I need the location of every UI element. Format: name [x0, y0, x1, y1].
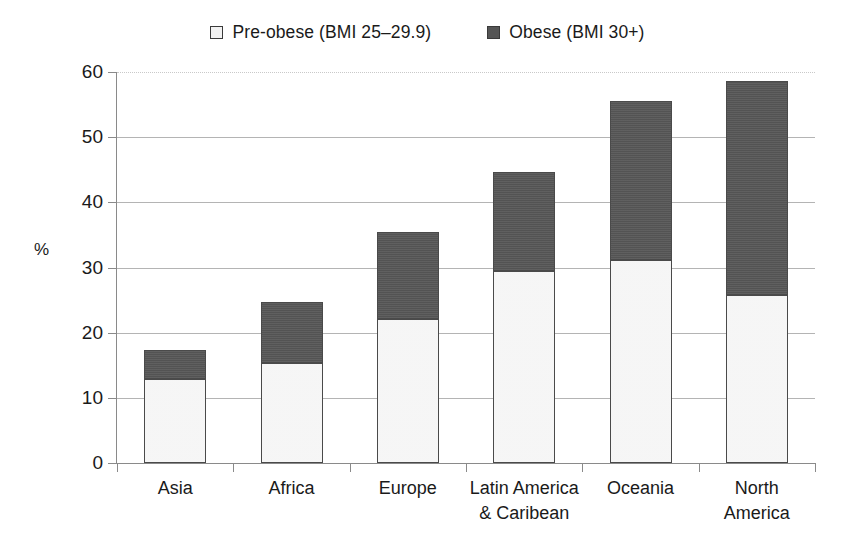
y-tick-mark-0 [108, 463, 117, 464]
bar-segment-pre-obese[interactable] [726, 295, 788, 463]
bar-segment-obese[interactable] [493, 172, 555, 271]
y-tick-label-20: 20 [82, 322, 103, 344]
x-axis-label: Africa [233, 476, 349, 501]
y-tick-mark-60 [108, 72, 117, 73]
x-axis-labels: AsiaAfricaEuropeLatin America & Caribean… [117, 476, 815, 546]
bar-segment-obese[interactable] [261, 302, 323, 363]
bar-segment-obese[interactable] [726, 81, 788, 295]
x-tick-mark [466, 463, 467, 472]
bar-group[interactable] [144, 72, 206, 463]
x-axis-label: North America [699, 476, 815, 526]
x-axis-label: Asia [117, 476, 233, 501]
x-tick-mark-origin [117, 463, 118, 472]
y-tick-mark-20 [108, 333, 117, 334]
bar-group[interactable] [377, 72, 439, 463]
bar-segment-pre-obese[interactable] [144, 379, 206, 463]
legend-label-obese: Obese (BMI 30+) [509, 22, 644, 43]
bars-layer [117, 72, 815, 463]
chart-legend: Pre-obese (BMI 25–29.9) Obese (BMI 30+) [0, 22, 855, 43]
x-tick-mark [233, 463, 234, 472]
stacked-bar-chart: Pre-obese (BMI 25–29.9) Obese (BMI 30+) … [0, 0, 855, 553]
bar-segment-pre-obese[interactable] [261, 363, 323, 463]
bar-segment-obese[interactable] [144, 350, 206, 379]
bar-segment-obese[interactable] [610, 101, 672, 261]
bar-segment-pre-obese[interactable] [493, 271, 555, 463]
y-tick-mark-30 [108, 268, 117, 269]
bar-segment-pre-obese[interactable] [610, 260, 672, 463]
y-tick-label-0: 0 [92, 452, 103, 474]
y-tick-label-30: 30 [82, 257, 103, 279]
dark-square-icon [487, 26, 500, 39]
y-tick-mark-50 [108, 137, 117, 138]
bar-group[interactable] [726, 72, 788, 463]
x-axis-label: Europe [350, 476, 466, 501]
bar-group[interactable] [610, 72, 672, 463]
light-square-icon [210, 26, 223, 39]
y-tick-label-50: 50 [82, 126, 103, 148]
y-tick-label-60: 60 [82, 61, 103, 83]
legend-item-obese: Obese (BMI 30+) [487, 22, 644, 43]
bar-segment-pre-obese[interactable] [377, 319, 439, 463]
x-tick-mark [699, 463, 700, 472]
x-tick-mark [582, 463, 583, 472]
bar-group[interactable] [493, 72, 555, 463]
y-tick-label-40: 40 [82, 191, 103, 213]
x-axis-label: Oceania [582, 476, 698, 501]
y-axis-title: % [34, 240, 49, 260]
y-tick-label-10: 10 [82, 387, 103, 409]
bar-group[interactable] [261, 72, 323, 463]
x-axis-label: Latin America & Caribean [466, 476, 582, 526]
y-tick-mark-40 [108, 202, 117, 203]
plot-area: 6050403020100 [117, 72, 815, 463]
bar-segment-obese[interactable] [377, 232, 439, 319]
x-tick-mark [815, 463, 816, 472]
legend-item-pre-obese: Pre-obese (BMI 25–29.9) [210, 22, 431, 43]
y-tick-mark-10 [108, 398, 117, 399]
x-tick-mark [350, 463, 351, 472]
legend-label-pre-obese: Pre-obese (BMI 25–29.9) [232, 22, 431, 43]
